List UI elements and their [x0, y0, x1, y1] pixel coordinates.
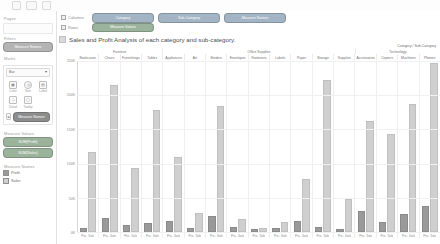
color-legend-icon: ■: [6, 113, 11, 120]
measure-value-pill-sales[interactable]: SUM(Sales): [3, 148, 53, 158]
subcategory-header: Chairs: [98, 54, 119, 60]
column-pill-sub-category[interactable]: Sub-Category: [158, 13, 220, 23]
bar-sales[interactable]: [409, 104, 417, 232]
subcategory-header: Binders: [205, 54, 226, 60]
bar-sales[interactable]: [345, 199, 353, 232]
bar-group[interactable]: [248, 61, 269, 232]
back-icon[interactable]: [12, 1, 21, 10]
marks-pill-measure-names[interactable]: Measure Names: [13, 112, 50, 122]
bar-profit[interactable]: [422, 206, 430, 232]
bar-group[interactable]: [354, 61, 375, 232]
pages-shelf[interactable]: [3, 23, 53, 34]
columns-shelf[interactable]: Columns Category Sub-Category Measure Na…: [61, 13, 436, 23]
x-axis-label: Sales: [302, 234, 308, 238]
marks-button-label-label: Label: [39, 89, 47, 93]
bar-group[interactable]: [98, 61, 119, 232]
gridline: [77, 198, 440, 199]
measure-values-shelf[interactable]: SUM(Profit): [3, 137, 53, 147]
marks-button-tooltip[interactable]: ▢ Tooltip: [21, 95, 35, 110]
measure-values-shelf-row-2[interactable]: SUM(Sales): [3, 148, 53, 158]
x-axis-label: Pro..: [81, 234, 87, 238]
x-axis-label: Sales: [174, 234, 180, 238]
subcategory-header: Envelopes: [226, 54, 247, 60]
bar-sales[interactable]: [430, 63, 438, 232]
bar-sales[interactable]: [366, 121, 374, 232]
rows-shelf[interactable]: Rows Measure Values: [61, 23, 436, 33]
marks-button-color[interactable]: ▣ Color: [6, 80, 20, 95]
rows-label: Rows: [68, 25, 78, 30]
bar-sales[interactable]: [323, 80, 331, 232]
marks-button-label[interactable]: ▤ Label: [36, 80, 50, 95]
x-axis-label-group: Pro..Sales: [290, 233, 311, 238]
bar-sales[interactable]: [302, 179, 310, 232]
subcategory-header: Appliances: [162, 54, 183, 60]
x-axis-label: Sales: [88, 234, 94, 238]
bar-group[interactable]: [226, 61, 247, 232]
bar-profit[interactable]: [400, 214, 408, 232]
bar-sales[interactable]: [217, 106, 225, 232]
legend-item-sales[interactable]: Sales: [3, 178, 53, 184]
filters-shelf[interactable]: Measure Names: [3, 42, 53, 52]
subcategory-header: Supplies: [333, 54, 354, 60]
subcategory-header: Accessories: [354, 54, 375, 60]
bar-profit[interactable]: [208, 216, 216, 232]
bar-group[interactable]: [162, 61, 183, 232]
column-pill-measure-names[interactable]: Measure Names: [224, 13, 286, 23]
bar-sales[interactable]: [238, 219, 246, 232]
gridline: [77, 232, 440, 233]
save-icon[interactable]: [42, 1, 51, 10]
bar-group[interactable]: [312, 61, 333, 232]
legend-item-profit[interactable]: Profit: [3, 170, 53, 176]
marks-button-tooltip-label: Tooltip: [23, 105, 32, 109]
bar-sales[interactable]: [110, 85, 118, 232]
bar-sales[interactable]: [387, 134, 395, 232]
marks-type-select[interactable]: Bar ▾: [6, 68, 50, 77]
subcategory-header: Tables: [141, 54, 162, 60]
bar-sales[interactable]: [131, 168, 139, 232]
bar-sales[interactable]: [195, 213, 203, 232]
bar-profit[interactable]: [294, 221, 302, 232]
subcategory-header: Bookcases: [77, 54, 98, 60]
y-axis-tick-label: 100K: [67, 162, 75, 166]
bar-group[interactable]: [376, 61, 397, 232]
bar-group[interactable]: [397, 61, 418, 232]
legend-swatch-profit: [3, 170, 9, 176]
forward-icon[interactable]: [26, 1, 37, 10]
bar-group[interactable]: [269, 61, 290, 232]
y-axis-tick-label: 0K: [71, 231, 75, 235]
bar-group[interactable]: [333, 61, 354, 232]
y-axis-tick-label: 150K: [67, 128, 75, 132]
bar-group[interactable]: [77, 61, 98, 232]
marks-button-detail[interactable]: ∴ Detail: [6, 95, 20, 110]
bar-group[interactable]: [184, 61, 205, 232]
x-axis-label-group: Pro..Sales: [248, 233, 269, 238]
subcategory-header: Labels: [269, 54, 290, 60]
x-axis-label: Pro..: [188, 234, 194, 238]
bar-sales[interactable]: [174, 157, 182, 232]
bar-profit[interactable]: [166, 221, 174, 232]
x-axis-label-group: Pro..Sales: [333, 233, 354, 238]
bar-sales[interactable]: [88, 152, 96, 232]
bar-sales[interactable]: [281, 222, 289, 232]
bar-profit[interactable]: [358, 211, 366, 232]
bar-group[interactable]: [141, 61, 162, 232]
subcategory-header: Storage: [312, 54, 333, 60]
filter-pill-measure-names[interactable]: Measure Names: [3, 42, 53, 52]
marks-button-size[interactable]: ◎ Size: [21, 80, 35, 95]
bar-group[interactable]: [290, 61, 311, 232]
bar-group[interactable]: [419, 61, 440, 232]
measure-value-pill-profit[interactable]: SUM(Profit): [3, 137, 53, 147]
x-axis-label-group: Pro..Sales: [77, 233, 98, 238]
x-axis-label-group: Pro..Sales: [312, 233, 333, 238]
x-axis-label-group: Pro..Sales: [354, 233, 375, 238]
gridline: [77, 129, 440, 130]
bar-profit[interactable]: [379, 222, 387, 232]
x-axis-label: Sales: [131, 234, 137, 238]
bar-profit[interactable]: [102, 218, 110, 232]
column-pill-category[interactable]: Category: [92, 13, 154, 23]
x-axis-label-group: Pro..Sales: [269, 233, 290, 238]
measure-values-label: Measure Values: [4, 131, 53, 136]
row-pill-measure-values[interactable]: Measure Values: [92, 23, 154, 33]
bar-group[interactable]: [120, 61, 141, 232]
bar-group[interactable]: [205, 61, 226, 232]
